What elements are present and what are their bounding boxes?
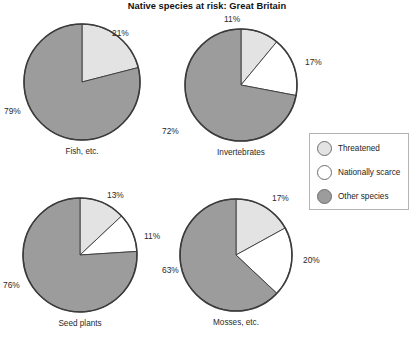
legend-swatch-other-species [317, 189, 332, 204]
legend-swatch-threatened [317, 141, 332, 156]
pie-fish-etc [24, 24, 140, 140]
pie-caption: Fish, etc. [12, 147, 152, 156]
legend-item-nationally-scarce: Nationally scarce [317, 164, 400, 180]
pct-label-nationally-scarce: 17% [305, 57, 322, 67]
pie-seed-plants [23, 198, 137, 312]
pie-caption: Invertebrates [171, 148, 311, 157]
legend-label-threatened: Threatened [338, 144, 380, 153]
pct-label-nationally-scarce: 20% [303, 255, 320, 265]
pie-caption: Seed plants [10, 319, 150, 328]
pct-label-threatened: 11% [224, 14, 240, 24]
chart-title: Native species at risk: Great Britain [0, 1, 414, 11]
pct-label-threatened: 17% [272, 193, 289, 203]
pie-invertebrates [185, 29, 297, 141]
legend-item-threatened: Threatened [317, 140, 380, 156]
pie-caption: Mosses, etc. [166, 318, 306, 327]
chart-legend: Threatened Nationally scarce Other speci… [309, 133, 409, 210]
pct-label-threatened: 21% [112, 28, 129, 38]
pie-mosses-etc [180, 199, 292, 311]
legend-label-nationally-scarce: Nationally scarce [338, 168, 400, 177]
legend-label-other-species: Other species [338, 192, 389, 201]
legend-item-other-species: Other species [317, 188, 389, 204]
pct-label-other-species: 76% [3, 280, 20, 290]
pct-label-other-species: 63% [162, 265, 179, 275]
legend-swatch-nationally-scarce [317, 165, 332, 180]
pct-label-nationally-scarce: 11% [144, 231, 160, 241]
pct-label-other-species: 79% [4, 106, 21, 116]
pct-label-threatened: 13% [107, 190, 124, 200]
pie-chart-figure: Native species at risk: Great Britain 21… [0, 0, 414, 341]
pct-label-other-species: 72% [162, 126, 179, 136]
